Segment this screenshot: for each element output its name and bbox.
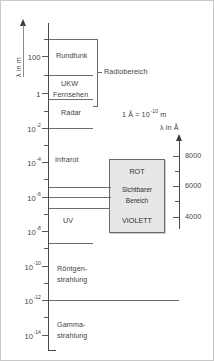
radiobereich-label: Radiobereich <box>104 68 148 76</box>
band-label-rundfunk: Rundfunk <box>56 52 88 60</box>
band-divider <box>49 208 109 209</box>
right-tick-minor <box>175 171 179 172</box>
band-label-ukw: UKW <box>61 80 78 88</box>
tick-10e-10 <box>42 266 48 267</box>
tick-10e-6 <box>42 197 48 198</box>
band-label-roentgen-1: Röntgen- <box>57 265 87 273</box>
tick-minor <box>44 111 48 112</box>
tick-minor <box>44 75 48 76</box>
right-axis-label: λ in Å <box>160 124 179 132</box>
band-label-gamma-2: strahlung <box>57 332 87 340</box>
band-label-gamma-1: Gamma- <box>57 321 86 329</box>
tick-minor <box>44 283 48 284</box>
tick-label-10e-14: 10-14 <box>3 330 41 341</box>
tick-10e-12 <box>42 300 48 301</box>
tick-minor <box>44 145 48 146</box>
band-divider <box>49 187 109 188</box>
tick-10e-2 <box>42 128 48 129</box>
main-axis-bottom-cap <box>48 350 56 351</box>
band-divider <box>49 197 109 198</box>
tick-1 <box>42 93 48 94</box>
band-divider <box>49 128 93 129</box>
tick-label-10e-12: 10-12 <box>3 295 41 306</box>
visible-spectrum-box: ROT Sichtbarer Bereich VIOLETT <box>109 159 165 233</box>
tick-label-10e-8: 10-8 <box>3 226 41 237</box>
tick-100 <box>42 56 48 57</box>
tick-minor <box>44 214 48 215</box>
tick-label-100: 100 <box>3 51 41 62</box>
spectrum-label-sichtbarer: Sichtbarer <box>110 186 164 193</box>
radiobereich-bracket <box>93 39 102 107</box>
band-label-radar: Radar <box>61 109 81 117</box>
right-tick-6000 <box>173 186 179 187</box>
right-tick-label-4000: 4000 <box>185 213 201 221</box>
right-tick-label-8000: 8000 <box>185 152 201 160</box>
tick-minor <box>44 248 48 249</box>
right-tick-8000 <box>173 156 179 157</box>
tick-minor <box>44 39 48 40</box>
right-axis-line <box>179 140 180 229</box>
tick-label-10e-6: 10-6 <box>3 192 41 203</box>
tick-label-10e-2: 10-2 <box>3 123 41 134</box>
right-tick-label-6000: 6000 <box>185 182 201 190</box>
band-divider <box>49 243 93 244</box>
right-tick-minor <box>175 201 179 202</box>
tick-minor <box>44 179 48 180</box>
band-label-roentgen-2: strahlung <box>57 276 87 284</box>
band-divider <box>49 300 179 301</box>
tick-label-10e-10: 10-10 <box>3 261 41 272</box>
right-tick-4000 <box>173 217 179 218</box>
tick-10e-14 <box>42 335 48 336</box>
tick-label-10e-4: 10-4 <box>3 157 41 168</box>
spectrum-connector-mid <box>101 197 111 198</box>
spectrum-label-rot: ROT <box>110 167 164 176</box>
band-divider <box>49 39 93 40</box>
band-label-fernsehen: Fernsehen <box>53 91 88 99</box>
band-divider <box>49 75 93 76</box>
tick-minor <box>44 317 48 318</box>
spectrum-connector-top <box>101 187 111 188</box>
electromagnetic-spectrum-diagram: λ in m 100 1 10-2 10-4 10-6 10-8 10-10 1… <box>0 0 214 361</box>
tick-label-1: 1 <box>3 88 41 99</box>
spectrum-label-bereich: Bereich <box>110 197 164 204</box>
spectrum-label-violett: VIOLETT <box>110 216 164 225</box>
band-label-infrarot: Infrarot <box>55 156 79 164</box>
tick-10e-8 <box>42 231 48 232</box>
band-label-uv: UV <box>63 217 73 225</box>
angstrom-conversion-note: 1 Å = 10-10 m <box>122 108 166 120</box>
tick-10e-4 <box>42 162 48 163</box>
